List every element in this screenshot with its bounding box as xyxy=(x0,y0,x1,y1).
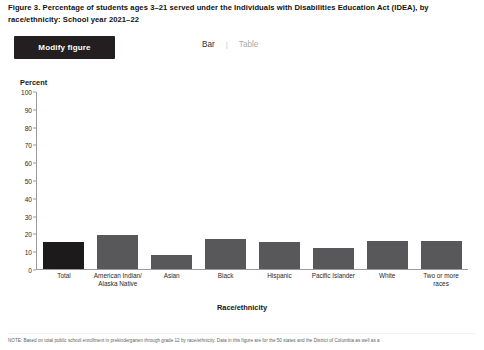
page-title: Figure 3. Percentage of students ages 3–… xyxy=(8,2,474,26)
y-tick-mark xyxy=(33,92,36,93)
bar-slot xyxy=(91,92,145,269)
bar-slot xyxy=(253,92,307,269)
y-tick-mark xyxy=(33,252,36,253)
y-tick-label: 50 xyxy=(25,178,32,185)
y-tick-label: 40 xyxy=(25,195,32,202)
bar[interactable] xyxy=(313,248,354,269)
x-tick-label: Two or more races xyxy=(414,272,468,289)
bar-slot xyxy=(360,92,414,269)
x-axis-labels: TotalAmerican Indian/​Alaska NativeAsian… xyxy=(37,272,468,289)
bar[interactable] xyxy=(259,242,300,269)
bar-slot xyxy=(145,92,199,269)
y-tick-label: 70 xyxy=(25,142,32,149)
tab-bar[interactable]: Bar xyxy=(200,39,217,50)
bar[interactable] xyxy=(43,242,84,269)
y-tick-label: 0 xyxy=(28,267,32,274)
y-tick-mark xyxy=(33,145,36,146)
bar-chart: Percent 1009080706050403020100 TotalAmer… xyxy=(0,78,484,318)
y-tick-mark xyxy=(33,216,36,217)
x-tick-label: White xyxy=(360,272,414,289)
bar-slot xyxy=(306,92,360,269)
x-tick-label: Black xyxy=(199,272,253,289)
y-tick-mark xyxy=(33,198,36,199)
bar[interactable] xyxy=(151,255,192,269)
y-tick-label: 20 xyxy=(25,231,32,238)
y-tick-label: 100 xyxy=(21,89,32,96)
bar[interactable] xyxy=(97,235,138,269)
y-tick-mark xyxy=(33,109,36,110)
y-tick-label: 60 xyxy=(25,160,32,167)
bar-slot xyxy=(199,92,253,269)
y-tick-label: 10 xyxy=(25,249,32,256)
y-tick-label: 80 xyxy=(25,124,32,131)
y-tick-mark xyxy=(33,127,36,128)
x-tick-label: Pacific Islander xyxy=(306,272,360,289)
bar-slot xyxy=(414,92,468,269)
bar[interactable] xyxy=(367,241,408,269)
figure-note: NOTE: Based on total public school enrol… xyxy=(8,338,478,344)
figure-toolbar: Modify figure Bar | Table xyxy=(14,36,470,60)
tab-table[interactable]: Table xyxy=(237,39,261,50)
bar[interactable] xyxy=(421,241,462,269)
bar[interactable] xyxy=(205,239,246,269)
y-tick-label: 30 xyxy=(25,213,32,220)
bar-slot xyxy=(37,92,91,269)
y-tick-label: 90 xyxy=(25,106,32,113)
bar-series xyxy=(37,92,468,269)
plot-area: 1009080706050403020100 xyxy=(36,92,468,270)
x-tick-label: Total xyxy=(37,272,91,289)
view-switch: Bar | Table xyxy=(200,39,260,50)
figure-page: Figure 3. Percentage of students ages 3–… xyxy=(0,0,484,350)
footnote-divider xyxy=(8,333,476,334)
x-tick-label: Hispanic xyxy=(253,272,307,289)
x-tick-label: American Indian/​Alaska Native xyxy=(91,272,145,289)
y-axis-title: Percent xyxy=(20,78,47,87)
x-axis-title: Race/ethnicity xyxy=(0,303,484,312)
view-separator: | xyxy=(226,40,228,49)
y-tick-mark xyxy=(33,163,36,164)
x-axis-line xyxy=(36,269,468,270)
y-tick-mark xyxy=(33,270,36,271)
modify-figure-button[interactable]: Modify figure xyxy=(14,36,115,59)
y-tick-mark xyxy=(33,181,36,182)
x-tick-label: Asian xyxy=(145,272,199,289)
y-tick-mark xyxy=(33,234,36,235)
